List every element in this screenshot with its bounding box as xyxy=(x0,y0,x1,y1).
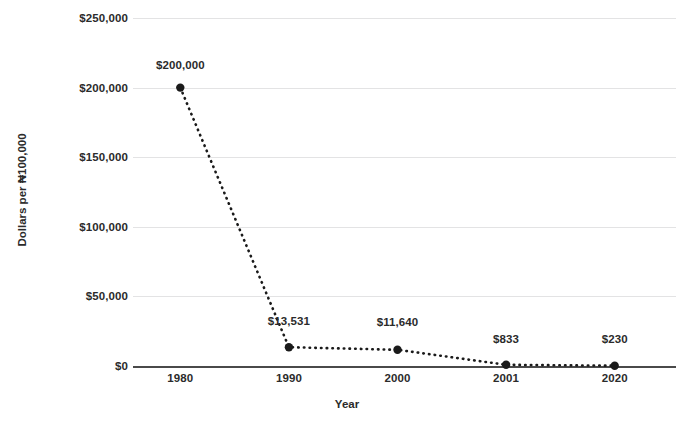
data-point-label: $833 xyxy=(493,333,519,345)
x-axis-tick-label: 1990 xyxy=(276,372,302,384)
data-point-marker xyxy=(502,361,510,369)
x-axis-tick-label: 2000 xyxy=(385,372,411,384)
data-point-label: $11,640 xyxy=(377,316,419,328)
x-axis-tick-label: 2020 xyxy=(602,372,628,384)
x-axis-title: Year xyxy=(0,398,694,410)
data-point-label: $230 xyxy=(602,333,628,345)
x-axis-tick-label: 1980 xyxy=(167,372,193,384)
data-point-label: $13,531 xyxy=(268,315,310,327)
x-axis-tick-label: 2001 xyxy=(493,372,519,384)
chart-figure: Dollars per ₦100,000 $250,000$200,000$15… xyxy=(0,0,694,432)
data-point-label: $200,000 xyxy=(156,59,205,71)
data-point-marker xyxy=(611,362,619,370)
data-point-marker xyxy=(176,83,184,91)
data-point-marker xyxy=(393,346,401,354)
data-point-marker xyxy=(285,343,293,351)
data-series xyxy=(0,0,694,432)
plot-area xyxy=(0,0,694,432)
